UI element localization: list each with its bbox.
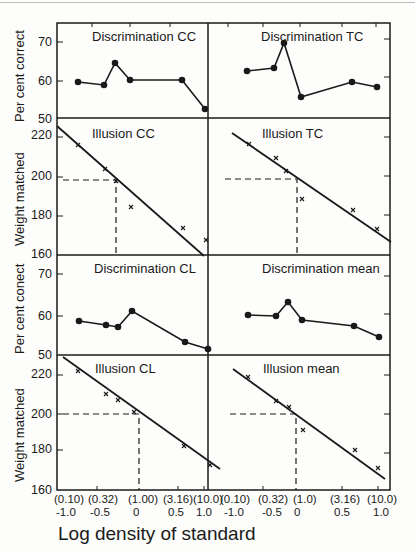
svg-text:70: 70 bbox=[38, 267, 52, 281]
svg-text:200: 200 bbox=[31, 169, 52, 183]
plot-discrimination-mean bbox=[246, 300, 382, 340]
svg-text:(0.32): (0.32) bbox=[258, 493, 288, 505]
x-ticks-left: (0.10) -1.0 (0.32) -0.5 (1.00) 0 (3.16) … bbox=[54, 493, 223, 518]
svg-text:50: 50 bbox=[38, 112, 52, 126]
svg-text:70: 70 bbox=[38, 35, 52, 49]
y-label-row4: Weight matched bbox=[12, 388, 27, 482]
svg-text:(3.16): (3.16) bbox=[163, 493, 193, 505]
plot-discrimination-cl bbox=[77, 309, 211, 352]
svg-text:1.0: 1.0 bbox=[373, 506, 389, 518]
y-label-row1: Per cent correct bbox=[12, 30, 27, 122]
y-tick-marks bbox=[57, 39, 390, 453]
svg-text:1.0: 1.0 bbox=[196, 506, 212, 518]
svg-text:(10.0): (10.0) bbox=[193, 493, 223, 505]
plot-illusion-tc bbox=[225, 133, 391, 255]
plot-discrimination-tc bbox=[245, 41, 380, 100]
svg-text:160: 160 bbox=[31, 483, 52, 497]
y-ticks-row1: 70 60 50 bbox=[38, 35, 52, 126]
svg-text:60: 60 bbox=[38, 74, 52, 88]
y-ticks-row3: 70 60 50 bbox=[38, 267, 52, 362]
plot-illusion-cc bbox=[57, 126, 208, 256]
y-label-row2: Weight matched bbox=[12, 152, 27, 246]
svg-text:200: 200 bbox=[31, 407, 52, 421]
figure-canvas: Discrimination CC Discrimination TC Illu… bbox=[0, 0, 415, 553]
panel-title-illusion-cc: Illusion CC bbox=[92, 126, 155, 141]
y-ticks-row2: 220 200 180 160 bbox=[31, 128, 52, 261]
svg-text:60: 60 bbox=[38, 309, 52, 323]
svg-text:0.5: 0.5 bbox=[168, 506, 184, 518]
svg-text:(3.16): (3.16) bbox=[330, 493, 360, 505]
y-label-row3: Per cent conect bbox=[12, 263, 27, 354]
svg-text:0: 0 bbox=[294, 506, 300, 518]
svg-text:(1.0): (1.0) bbox=[293, 493, 317, 505]
panel-frames bbox=[57, 23, 390, 490]
svg-text:(10.0): (10.0) bbox=[367, 493, 397, 505]
y-ticks-row4: 220 200 180 160 bbox=[31, 367, 52, 497]
svg-text:0: 0 bbox=[133, 506, 139, 518]
svg-text:0.5: 0.5 bbox=[334, 506, 350, 518]
svg-text:180: 180 bbox=[31, 442, 52, 456]
x-ticks-right: (0.10) -1.0 (0.32) -0.5 (1.0) 0 (3.16) 0… bbox=[220, 493, 397, 518]
panel-title-discrimination-cl: Discrimination CL bbox=[94, 261, 196, 276]
x-axis-label: Log density of standard bbox=[58, 523, 256, 544]
plot-illusion-mean bbox=[230, 369, 385, 490]
panel-title-illusion-tc: Illusion TC bbox=[262, 126, 323, 141]
svg-text:(0.10): (0.10) bbox=[54, 493, 84, 505]
plot-illusion-cl bbox=[63, 357, 220, 490]
panel-title-illusion-cl: Illusion CL bbox=[95, 361, 156, 376]
svg-text:-0.5: -0.5 bbox=[90, 506, 110, 518]
plot-discrimination-cc bbox=[76, 61, 208, 112]
svg-text:(1.00): (1.00) bbox=[128, 493, 158, 505]
svg-text:50: 50 bbox=[38, 348, 52, 362]
svg-text:(0.32): (0.32) bbox=[88, 493, 118, 505]
svg-text:(0.10): (0.10) bbox=[220, 493, 250, 505]
svg-text:220: 220 bbox=[31, 128, 52, 142]
panel-title-discrimination-cc: Discrimination CC bbox=[92, 29, 196, 44]
svg-text:220: 220 bbox=[31, 367, 52, 381]
panel-title-discrimination-mean: Discrimination mean bbox=[262, 261, 380, 276]
svg-text:160: 160 bbox=[31, 247, 52, 261]
panel-title-discrimination-tc: Discrimination TC bbox=[261, 29, 363, 44]
panel-title-illusion-mean: Illusion mean bbox=[263, 361, 340, 376]
svg-text:180: 180 bbox=[31, 208, 52, 222]
svg-text:-1.0: -1.0 bbox=[56, 506, 76, 518]
svg-text:-0.5: -0.5 bbox=[262, 506, 282, 518]
svg-text:-1.0: -1.0 bbox=[224, 506, 244, 518]
